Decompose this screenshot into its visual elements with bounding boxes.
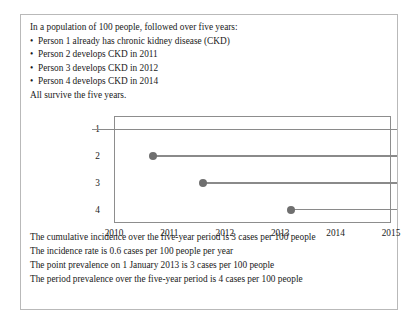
measure-incidence-rate: The incidence rate is 0.6 cases per 100 …	[30, 244, 395, 258]
y-axis-tick-label: 4	[76, 205, 100, 215]
case-duration-line	[92, 129, 397, 130]
plot-area-border	[114, 116, 391, 223]
case-duration-line	[291, 209, 396, 210]
case-onset-marker	[287, 206, 295, 214]
measure-point-prevalence: The point prevalence on 1 January 2013 i…	[30, 258, 395, 272]
scenario-bullet-person-3: • Person 3 develops CKD in 2012	[30, 62, 390, 76]
scenario-block: In a population of 100 people, followed …	[30, 21, 390, 103]
scenario-bullet-label: Person 4 develops CKD in 2014	[38, 76, 158, 86]
y-axis-tick-label: 3	[76, 178, 100, 188]
scenario-bullet-person-4: • Person 4 develops CKD in 2014	[30, 75, 390, 89]
bullet-icon: •	[30, 62, 33, 76]
bullet-icon: •	[30, 48, 33, 62]
scenario-bullet-person-1: • Person 1 already has chronic kidney di…	[30, 35, 390, 49]
case-onset-marker	[199, 179, 207, 187]
scenario-bullet-label: Person 3 develops CKD in 2012	[38, 63, 158, 73]
measures-block: The cumulative incidence over the five-y…	[30, 230, 395, 286]
scenario-bullet-label: Person 1 already has chronic kidney dise…	[38, 36, 230, 46]
case-duration-line	[153, 155, 397, 156]
scenario-intro: In a population of 100 people, followed …	[30, 21, 390, 35]
figure-frame: In a population of 100 people, followed …	[20, 14, 398, 310]
scenario-bullet-label: Person 2 develops CKD in 2011	[38, 49, 158, 59]
measure-cumulative-incidence: The cumulative incidence over the five-y…	[30, 230, 395, 244]
scenario-bullet-person-2: • Person 2 develops CKD in 2011	[30, 48, 390, 62]
case-duration-line	[203, 182, 397, 183]
measure-period-prevalence: The period prevalence over the five-year…	[30, 272, 395, 286]
bullet-icon: •	[30, 75, 33, 89]
ckd-timeline-chart: 1234201020112012201320142015	[21, 101, 399, 226]
y-axis-tick-label: 2	[76, 151, 100, 161]
bullet-icon: •	[30, 35, 33, 49]
case-onset-marker	[149, 152, 157, 160]
